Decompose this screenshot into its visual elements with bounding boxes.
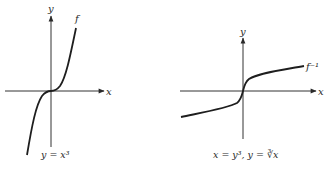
left-caption: y = x³ [40, 149, 70, 160]
right-panel: y x f⁻¹ x = y³, y = ∛x [180, 26, 324, 160]
figure-svg: y x f y = x³ y x f⁻¹ x = y³, y = ∛x [0, 0, 329, 170]
left-x-axis-label: x [106, 86, 112, 97]
left-y-axis-label: y [47, 3, 54, 14]
right-function-label: f⁻¹ [305, 61, 319, 72]
right-y-axis-label: y [239, 26, 246, 37]
left-function-label: f [74, 13, 81, 24]
left-panel: y x f y = x³ [5, 3, 112, 160]
right-caption: x = y³, y = ∛x [213, 149, 279, 160]
right-x-axis-label: x [318, 86, 324, 97]
figure-canvas: y x f y = x³ y x f⁻¹ x = y³, y = ∛x [0, 0, 329, 170]
